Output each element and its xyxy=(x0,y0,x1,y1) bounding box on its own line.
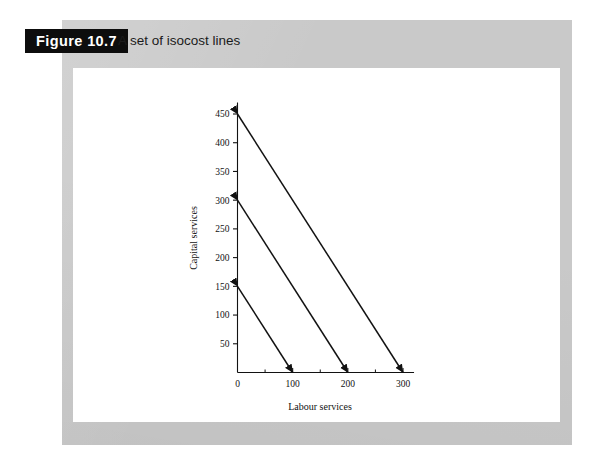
y-axis-tick-label: 100 xyxy=(215,310,230,320)
figure-container: Figure 10.7 A set of isocost lines 50100… xyxy=(0,0,603,461)
y-axis-tick-label: 250 xyxy=(215,224,230,234)
y-axis-tick-label: 300 xyxy=(215,196,230,206)
x-axis-tick-label: 200 xyxy=(341,379,356,389)
x-axis-tick-label: 300 xyxy=(396,379,411,389)
chart-axes xyxy=(238,103,415,373)
x-axis-tick-label: 0 xyxy=(235,379,240,389)
chart-tick-labels: 501001502002503003504004500100200300 xyxy=(215,109,410,388)
figure-caption: A set of isocost lines xyxy=(118,30,240,52)
chart-series-lines xyxy=(238,114,404,373)
y-axis-tick-label: 200 xyxy=(215,253,230,263)
y-axis-tick-label: 450 xyxy=(215,109,230,119)
isocost-line xyxy=(238,286,293,372)
isocost-line xyxy=(238,114,404,373)
y-axis-tick-label: 150 xyxy=(215,282,230,292)
y-axis-tick-label: 350 xyxy=(215,167,230,177)
y-axis-title: Capital services xyxy=(188,206,199,270)
y-axis-tick-label: 50 xyxy=(220,339,230,349)
x-axis-tick-label: 100 xyxy=(286,379,301,389)
isocost-chart: 501001502002503003504004500100200300 Cap… xyxy=(0,0,603,461)
isocost-line xyxy=(238,200,348,372)
x-axis-title: Labour services xyxy=(288,401,352,412)
figure-number-badge: Figure 10.7 xyxy=(25,29,128,53)
y-axis-tick-label: 400 xyxy=(215,138,230,148)
